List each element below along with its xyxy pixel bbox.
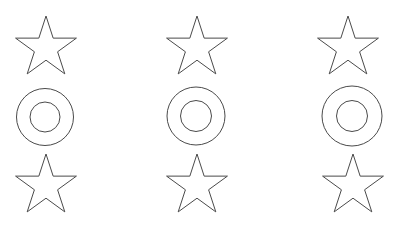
- ring-col1-middle-icon: [17, 89, 74, 146]
- star-col3-bottom-icon: [323, 154, 384, 212]
- star-col2-top-icon: [167, 16, 228, 74]
- star-col3-top-icon: [318, 16, 379, 74]
- star-col1-top-icon: [16, 16, 77, 74]
- shape-grid-canvas: [0, 0, 398, 227]
- ring-col3-middle-icon: [322, 86, 382, 146]
- inner-circle: [337, 101, 368, 132]
- star-col1-bottom-icon: [16, 154, 77, 212]
- outer-circle: [167, 87, 225, 145]
- ring-col2-middle-icon: [167, 87, 225, 145]
- inner-circle: [30, 102, 60, 132]
- outer-circle: [17, 89, 74, 146]
- shape-layer: [16, 16, 384, 212]
- star-col2-bottom-icon: [167, 154, 228, 212]
- inner-circle: [181, 101, 212, 132]
- outer-circle: [322, 86, 382, 146]
